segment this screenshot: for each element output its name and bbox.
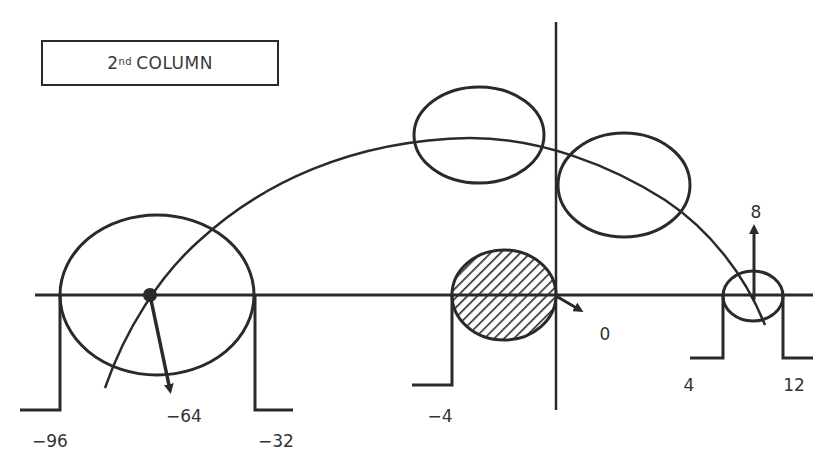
step-profile-small-left [690,296,723,358]
arrow-to-zero [556,296,580,310]
title-text: COLUMN [136,53,213,73]
label-minus-32: −32 [258,431,294,451]
step-profile-small-right [783,296,813,358]
upper-right-ellipse [558,133,690,237]
title-ordinal-number: 2 [107,53,118,73]
label-zero: 0 [600,324,611,344]
title-box: 2ndCOLUMN [41,40,279,86]
upper-left-ellipse [414,87,544,183]
step-profile-right [255,295,293,410]
label-minus-64: −64 [166,406,202,426]
label-eight: 8 [751,202,762,222]
trajectory-arc [105,138,765,388]
label-minus-4: −4 [427,406,452,426]
step-profile-left [20,295,60,410]
label-twelve: 12 [783,375,805,395]
label-minus-96: −96 [32,431,68,451]
title-ordinal-suffix: nd [118,56,132,67]
label-four: 4 [684,375,695,395]
step-profile-center [412,295,452,385]
